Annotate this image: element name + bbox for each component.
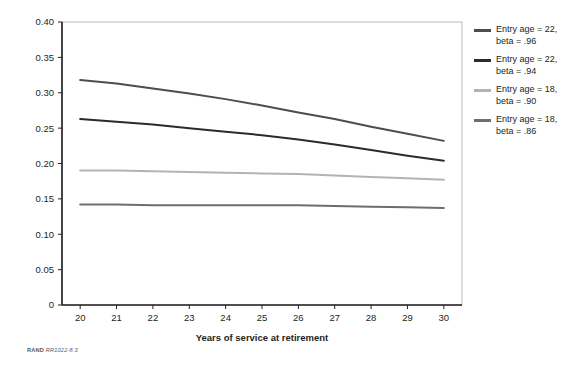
- x-tick-label: 28: [366, 312, 377, 323]
- y-tick-label: 0: [49, 299, 54, 310]
- legend-item: Entry age = 22, beta = .96: [474, 24, 585, 47]
- plot-frame: [62, 22, 462, 305]
- x-tick-label: 25: [257, 312, 268, 323]
- x-tick-label: 21: [111, 312, 122, 323]
- legend-swatch-icon: [474, 29, 491, 32]
- legend-swatch-icon: [474, 59, 491, 62]
- legend-item: Entry age = 18, beta = .86: [474, 114, 585, 137]
- x-tick-label: 23: [184, 312, 195, 323]
- footnote-figure-id: RR1022-8.3: [46, 347, 78, 353]
- legend-swatch-icon: [474, 119, 491, 122]
- figure-source-note: RAND RR1022-8.3: [27, 347, 78, 353]
- footnote-brand: RAND: [27, 347, 44, 353]
- y-tick-label: 0.20: [36, 158, 55, 169]
- legend-item: Entry age = 18, beta = .90: [474, 84, 585, 107]
- legend-item-label: Entry age = 18, beta = .90: [496, 84, 557, 107]
- legend-swatch-icon: [474, 89, 491, 92]
- y-tick-label: 0.25: [36, 123, 55, 134]
- x-tick-label: 27: [329, 312, 340, 323]
- x-tick-label: 30: [439, 312, 450, 323]
- x-tick-label: 22: [148, 312, 159, 323]
- series-line-1: [80, 80, 444, 141]
- y-tick-label: 0.30: [36, 87, 55, 98]
- x-tick-label: 26: [293, 312, 304, 323]
- x-tick-label: 29: [402, 312, 413, 323]
- chart-legend: Entry age = 22, beta = .96Entry age = 22…: [474, 24, 585, 144]
- figure-container: 00.050.100.150.200.250.300.350.402021222…: [0, 0, 585, 369]
- legend-item-label: Entry age = 18, beta = .86: [496, 114, 557, 137]
- series-line-4: [80, 205, 444, 209]
- series-line-2: [80, 119, 444, 161]
- y-tick-label: 0.40: [36, 16, 55, 27]
- legend-item-label: Entry age = 22, beta = .96: [496, 24, 557, 47]
- legend-item-label: Entry age = 22, beta = .94: [496, 54, 557, 77]
- x-tick-label: 24: [220, 312, 231, 323]
- legend-item: Entry age = 22, beta = .94: [474, 54, 585, 77]
- y-tick-label: 0.35: [36, 52, 55, 63]
- x-axis-title: Years of service at retirement: [196, 332, 329, 343]
- series-line-3: [80, 171, 444, 180]
- y-tick-label: 0.15: [36, 193, 55, 204]
- x-tick-label: 20: [75, 312, 86, 323]
- y-tick-label: 0.05: [36, 264, 55, 275]
- y-tick-label: 0.10: [36, 229, 55, 240]
